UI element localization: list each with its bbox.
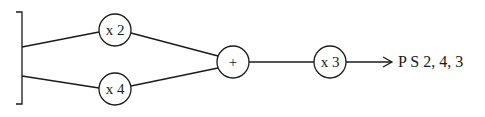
output-label: P S 2, 4, 3 xyxy=(398,53,463,70)
node-mult4: x 4 xyxy=(99,73,131,105)
node-sum-label: + xyxy=(229,54,237,70)
edge-input-to-mult2 xyxy=(22,32,99,47)
edge-mult2-to-sum xyxy=(131,33,218,56)
node-mult2: x 2 xyxy=(99,14,131,46)
edge-input-to-mult4 xyxy=(22,76,99,88)
input-bracket xyxy=(16,12,22,104)
node-mult2-label: x 2 xyxy=(106,22,125,38)
node-mult3-label: x 3 xyxy=(321,54,340,70)
node-mult4-label: x 4 xyxy=(106,81,125,97)
signal-flow-diagram: x 2 x 4 + x 3 P S 2, 4, 3 xyxy=(0,0,485,117)
edge-mult4-to-sum xyxy=(131,68,218,86)
node-sum: + xyxy=(217,46,249,78)
node-mult3: x 3 xyxy=(314,46,346,78)
